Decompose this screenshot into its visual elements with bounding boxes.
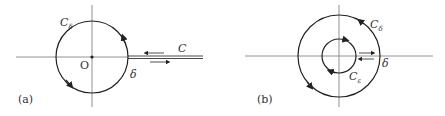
origin-dot — [90, 55, 93, 58]
arrow-outer-lower — [307, 82, 311, 87]
inner-contour-label: Cε — [349, 70, 361, 85]
diagram-canvas: Cδ O C δ (a) Cδ Cε δ (b) — [0, 0, 445, 116]
origin-label: O — [80, 59, 89, 72]
branch-label: C — [178, 42, 187, 55]
panel-label-b: (b) — [257, 93, 273, 106]
outer-contour-label: Cδ — [370, 18, 383, 33]
figure-a: Cδ O C δ (a) — [16, 5, 203, 107]
contour-label-a: Cδ — [60, 16, 73, 31]
panel-label-a: (a) — [18, 93, 33, 106]
delta-label-b: δ — [382, 57, 389, 70]
delta-label-a: δ — [130, 68, 137, 81]
figure-b: Cδ Cε δ (b) — [245, 5, 433, 107]
